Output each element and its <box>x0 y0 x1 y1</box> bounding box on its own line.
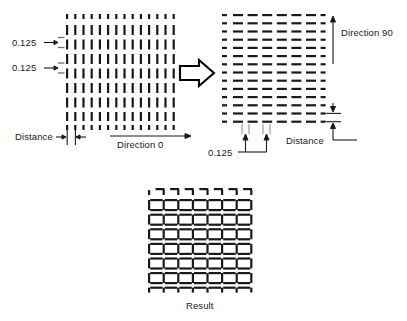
left-hatch-row <box>66 54 175 64</box>
result-row <box>148 214 252 226</box>
right-hatch-row <box>222 80 326 82</box>
direction-90-arrow <box>331 16 336 64</box>
left-hatch-row <box>66 69 175 79</box>
left-spacing-upper-leader <box>44 38 65 48</box>
right-hatch-row <box>222 112 326 114</box>
left-distance-label: Distance <box>15 131 53 142</box>
direction-0-label: Direction 0 <box>117 139 164 150</box>
right-distance-label: Distance <box>286 135 324 146</box>
result-row <box>148 287 252 293</box>
right-hatch-grid <box>222 14 326 123</box>
result-row <box>148 228 252 240</box>
right-hatch-row <box>222 14 326 16</box>
result-crosshatch-grid <box>148 188 252 293</box>
right-hatch-row <box>222 30 326 32</box>
left-hatch-row <box>66 40 175 50</box>
right-hatch-row <box>222 71 326 73</box>
left-hatch-row <box>66 14 175 19</box>
right-hatch-row <box>222 39 326 41</box>
left-hatch-row <box>66 98 175 108</box>
right-hatch-row <box>222 47 326 49</box>
result-row <box>148 199 252 211</box>
left-hatch-row <box>66 83 175 93</box>
left-hatch-row <box>66 25 175 35</box>
right-hatch-row <box>222 88 326 90</box>
right-hatch-row <box>222 121 326 123</box>
right-spacing-label: 0.125 <box>208 147 232 158</box>
right-hatch-row <box>222 55 326 57</box>
result-row <box>148 272 252 284</box>
right-distance-indicator <box>326 103 357 140</box>
result-row <box>148 257 252 269</box>
left-hatch-grid <box>66 14 175 130</box>
diagram-vector-layer <box>0 0 407 321</box>
left-hatch-row <box>66 125 175 130</box>
left-hatch-row <box>66 112 175 121</box>
direction-0-arrow <box>110 134 191 139</box>
transform-arrow-icon <box>180 60 214 86</box>
left-spacing-lower-leader <box>44 63 65 73</box>
diagram-canvas: 0.125 0.125 Distance Direction 0 Directi… <box>0 0 407 321</box>
right-hatch-row <box>222 22 326 24</box>
result-row <box>148 243 252 255</box>
right-spacing-leader <box>238 124 270 152</box>
left-spacing-lower-label: 0.125 <box>12 62 36 73</box>
direction-90-label: Direction 90 <box>341 27 393 38</box>
left-distance-indicator <box>56 129 86 146</box>
right-hatch-row <box>222 63 326 65</box>
left-spacing-upper-label: 0.125 <box>12 37 36 48</box>
right-hatch-row <box>222 96 326 98</box>
result-row <box>148 188 252 195</box>
right-hatch-row <box>222 104 326 106</box>
result-caption: Result <box>186 300 214 311</box>
